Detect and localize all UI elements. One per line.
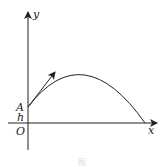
figure-caption: 图 bbox=[78, 158, 86, 167]
height-label: h bbox=[17, 111, 24, 124]
x-axis-label: x bbox=[148, 124, 155, 137]
y-axis-label: y bbox=[32, 8, 40, 21]
trajectory-curve bbox=[28, 75, 145, 123]
velocity-arrow bbox=[28, 72, 55, 107]
trajectory-diagram: y x O A h 图 bbox=[0, 0, 165, 167]
origin-label: O bbox=[16, 125, 25, 138]
